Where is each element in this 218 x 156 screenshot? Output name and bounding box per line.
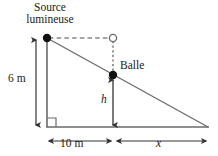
label-base-distance-10m: 10 m xyxy=(60,137,83,149)
source-lumineuse-point xyxy=(43,34,51,42)
label-ball-height-h: h xyxy=(101,93,107,105)
label-source-lumineuse: Source lumineuse xyxy=(14,1,86,25)
light-ray-hypotenuse-line xyxy=(47,38,208,127)
label-source-line1: Source xyxy=(14,1,86,13)
label-height-6m: 6 m xyxy=(8,72,26,84)
ball-release-point xyxy=(109,34,116,41)
balle-point xyxy=(109,71,117,79)
right-angle-marker xyxy=(47,118,56,127)
label-source-line2: lumineuse xyxy=(14,13,86,25)
geometry-diagram: Source lumineuse 6 m Balle h 10 m x xyxy=(0,0,218,156)
label-balle: Balle xyxy=(120,59,144,71)
label-shadow-distance-x: x xyxy=(156,137,161,149)
